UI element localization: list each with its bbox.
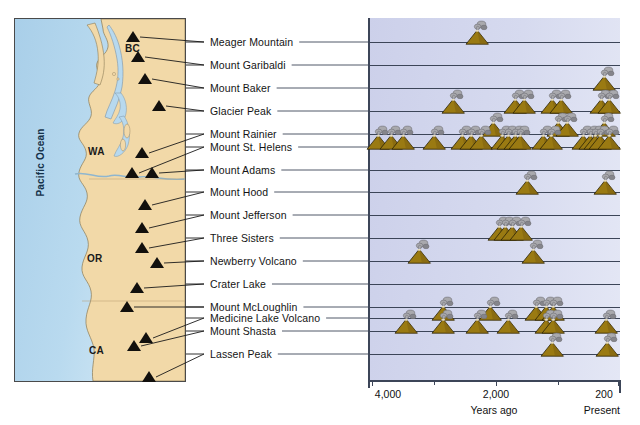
volcano-row-label: Mount Shasta <box>210 325 276 337</box>
eruption-symbol <box>495 308 521 334</box>
volcano-row-label: Mount Jefferson <box>210 209 287 221</box>
volcano-row-label: Mount Adams <box>210 164 275 176</box>
volcano-row-label: Mount Garibaldi <box>210 59 286 71</box>
map-volcano-marker <box>145 167 159 178</box>
map-volcano-marker <box>126 31 140 42</box>
volcano-row-label: Mount Baker <box>210 82 271 94</box>
x-axis-title: Years ago <box>471 404 518 416</box>
map-region-label-wa: WA <box>88 146 105 157</box>
map-volcano-marker <box>125 167 139 178</box>
x-axis-tick <box>618 380 619 386</box>
eruption-symbol <box>539 331 565 357</box>
x-axis-tick-label: 200 <box>595 388 613 400</box>
x-axis-tick-label: 2,000 <box>483 388 509 400</box>
map-volcano-marker <box>138 73 152 84</box>
map-volcano-marker <box>142 371 156 382</box>
x-axis-present-label: Present <box>584 404 620 416</box>
x-axis-minor-tick <box>558 380 559 385</box>
map-volcano-marker <box>139 332 153 343</box>
chart-row-gridline <box>368 88 620 89</box>
map-volcano-marker <box>131 51 145 62</box>
ocean-label: Pacific Ocean <box>35 118 46 208</box>
x-axis-tick <box>372 380 373 386</box>
map-volcano-marker <box>130 282 144 293</box>
map-volcano-marker <box>152 100 166 111</box>
eruption-symbol <box>594 331 620 357</box>
eruption-symbol <box>520 238 546 264</box>
volcano-row-label: Three Sisters <box>210 232 274 244</box>
eruption-symbol <box>511 88 537 114</box>
x-axis-tick <box>496 380 497 386</box>
x-axis-minor-tick <box>434 380 435 385</box>
chart-row-gridline <box>368 170 620 171</box>
eruption-symbol <box>421 124 447 150</box>
map-panel: Pacific Ocean <box>14 18 186 382</box>
map-region-label-ca: CA <box>89 345 104 356</box>
volcano-row-label: Mount Rainier <box>210 128 277 140</box>
volcano-row-label: Medicine Lake Volcano <box>210 312 320 324</box>
eruption-symbol <box>406 238 432 264</box>
eruption-symbol <box>596 124 622 150</box>
volcano-row-label: Crater Lake <box>210 278 266 290</box>
map-volcano-marker <box>135 242 149 253</box>
map-volcano-marker <box>138 199 152 210</box>
chart-row-gridline <box>368 192 620 193</box>
chart-row-gridline <box>368 42 620 43</box>
volcano-row-label: Lassen Peak <box>210 348 272 360</box>
chart-row-gridline <box>368 284 620 285</box>
eruption-symbol <box>514 169 540 195</box>
volcano-row-label: Newberry Volcano <box>210 255 297 267</box>
eruption-symbol <box>464 19 490 45</box>
eruption-symbol <box>393 308 419 334</box>
map-volcano-marker <box>150 257 164 268</box>
map-volcano-marker <box>135 222 149 233</box>
chart-symbol-layer <box>340 18 640 380</box>
eruption-symbol <box>440 88 466 114</box>
eruption-symbol <box>464 308 490 334</box>
map-volcano-marker <box>127 340 141 351</box>
x-axis-tick-label: 4,000 <box>375 388 401 400</box>
chart-row-gridline <box>368 65 620 66</box>
chart-row-gridline <box>368 354 620 355</box>
map-volcano-marker <box>135 147 149 158</box>
eruption-symbol <box>430 308 456 334</box>
eruption-symbol <box>592 169 618 195</box>
chart-x-axis <box>368 380 620 382</box>
eruption-symbol <box>390 124 416 150</box>
volcano-row-label: Meager Mountain <box>210 36 293 48</box>
map-volcano-marker <box>120 301 134 312</box>
volcano-row-label: Mount Hood <box>210 186 268 198</box>
map-region-label-or: OR <box>87 253 103 264</box>
volcano-row-label: Glacier Peak <box>210 105 271 117</box>
volcano-row-label: Mount St. Helens <box>210 141 292 153</box>
eruption-symbol <box>538 124 564 150</box>
